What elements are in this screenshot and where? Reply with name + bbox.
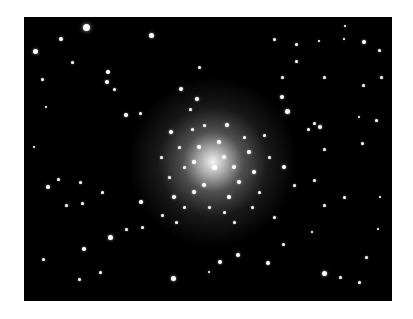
star: [99, 271, 102, 274]
star: [149, 33, 154, 38]
star: [247, 150, 251, 154]
star: [318, 125, 322, 129]
star: [362, 84, 365, 87]
star: [83, 24, 90, 31]
star: [233, 221, 236, 224]
star: [178, 146, 181, 149]
star: [313, 122, 316, 125]
star: [192, 190, 196, 194]
star: [33, 49, 38, 54]
star: [189, 108, 192, 111]
star: [273, 38, 276, 41]
star: [295, 43, 298, 46]
star: [323, 204, 326, 207]
star: [171, 276, 176, 281]
star: [285, 109, 290, 114]
star: [323, 76, 326, 79]
star: [282, 243, 285, 246]
star: [172, 195, 176, 199]
star: [375, 119, 378, 122]
star: [378, 49, 381, 52]
star: [81, 202, 84, 205]
star: [266, 261, 270, 265]
star: [42, 258, 45, 261]
star: [195, 97, 199, 101]
star: [282, 165, 286, 169]
cluster-core-glow: [24, 17, 392, 301]
star: [202, 183, 206, 187]
star-cluster-image: [24, 17, 392, 301]
star: [281, 76, 284, 79]
star: [106, 70, 110, 74]
star: [227, 195, 231, 199]
star: [263, 134, 266, 137]
star: [191, 128, 194, 131]
star: [343, 196, 346, 199]
star: [252, 170, 256, 174]
star: [183, 206, 186, 209]
star: [78, 278, 81, 281]
star: [237, 180, 241, 184]
star: [57, 178, 60, 181]
star: [179, 87, 183, 91]
star: [101, 191, 104, 194]
star: [161, 214, 164, 217]
star: [79, 181, 82, 184]
star: [105, 80, 109, 84]
star: [307, 128, 310, 131]
star: [258, 191, 261, 194]
star: [251, 206, 254, 209]
star: [268, 156, 271, 159]
star: [236, 253, 240, 257]
star: [243, 136, 246, 139]
star: [313, 179, 316, 182]
star: [208, 206, 211, 209]
star: [183, 166, 186, 169]
star: [339, 276, 342, 279]
star: [197, 145, 201, 149]
star: [192, 160, 196, 164]
star: [139, 200, 143, 204]
star: [203, 124, 206, 127]
star: [380, 76, 383, 79]
star: [323, 148, 326, 151]
star: [273, 216, 276, 219]
star: [232, 165, 236, 169]
star: [295, 60, 298, 63]
star: [71, 61, 74, 64]
star: [293, 184, 296, 187]
star: [82, 247, 86, 251]
star: [218, 260, 222, 264]
star: [175, 221, 178, 224]
star: [361, 142, 364, 145]
star: [217, 140, 221, 144]
star: [362, 40, 366, 44]
star: [358, 281, 361, 284]
star: [113, 88, 116, 91]
star: [212, 165, 217, 170]
star: [65, 204, 68, 207]
star: [46, 185, 50, 189]
star: [125, 228, 128, 231]
star: [168, 176, 171, 179]
star: [169, 130, 173, 134]
star: [141, 226, 144, 229]
star: [59, 37, 63, 41]
star: [365, 256, 368, 259]
star: [322, 271, 327, 276]
star: [124, 113, 128, 117]
star: [225, 123, 229, 127]
star: [41, 78, 44, 81]
star: [223, 211, 226, 214]
star: [198, 66, 201, 69]
star: [160, 156, 163, 159]
star: [139, 112, 142, 115]
star: [108, 235, 113, 240]
